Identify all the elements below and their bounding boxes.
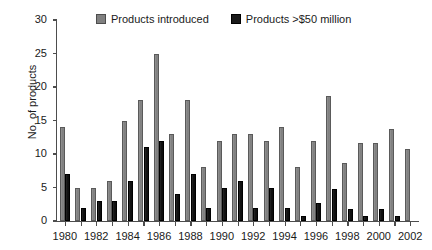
bar-products-over-50-million-1986 xyxy=(159,141,164,221)
x-tick-mark-1998 xyxy=(347,222,348,226)
x-tick-mark-1985 xyxy=(143,222,144,226)
x-tick-mark-1997 xyxy=(332,222,333,226)
bar-products-introduced-1984 xyxy=(122,121,127,222)
x-tick-label-2002: 2002 xyxy=(398,230,422,243)
y-tick-mark xyxy=(53,53,57,54)
x-tick-label-1992: 1992 xyxy=(241,230,265,243)
bar-products-over-50-million-1999 xyxy=(363,216,368,221)
bar-products-over-50-million-1991 xyxy=(238,181,243,221)
x-tick-mark-1994 xyxy=(285,222,286,226)
x-tick-mark-1992 xyxy=(253,222,254,226)
y-axis-title: No. of products xyxy=(26,42,38,162)
bars-layer xyxy=(57,20,418,221)
x-tick-mark-1989 xyxy=(206,222,207,226)
bar-products-over-50-million-2001 xyxy=(395,216,400,221)
y-tick-mark xyxy=(53,86,57,87)
bar-products-introduced-1999 xyxy=(358,143,363,221)
x-tick-mark-1984 xyxy=(128,222,129,226)
x-tick-mark-1986 xyxy=(159,222,160,226)
bar-products-introduced-1987 xyxy=(169,134,174,221)
bar-products-over-50-million-1997 xyxy=(332,189,337,221)
y-tick-label: 5 xyxy=(41,181,47,194)
x-tick-mark-1999 xyxy=(363,222,364,226)
y-tick-label: 30 xyxy=(35,13,47,26)
x-tick-label-2000: 2000 xyxy=(367,230,391,243)
x-tick-label-1982: 1982 xyxy=(84,230,108,243)
y-tick-mark xyxy=(53,153,57,154)
x-tick-mark-1981 xyxy=(81,222,82,226)
bar-products-over-50-million-1983 xyxy=(112,201,117,221)
bar-products-introduced-1980 xyxy=(60,127,65,221)
bar-products-introduced-1990 xyxy=(217,141,222,221)
bar-products-introduced-1982 xyxy=(91,188,96,222)
y-tick-mark xyxy=(53,187,57,188)
y-tick-label: 0 xyxy=(41,214,47,227)
bar-products-over-50-million-1995 xyxy=(301,216,306,221)
x-tick-label-1996: 1996 xyxy=(304,230,328,243)
bar-products-introduced-1998 xyxy=(342,163,347,221)
x-tick-mark-1993 xyxy=(269,222,270,226)
bar-products-introduced-1986 xyxy=(154,54,159,222)
bar-products-introduced-1992 xyxy=(248,134,253,221)
bar-products-over-50-million-1984 xyxy=(128,181,133,221)
x-tick-label-1988: 1988 xyxy=(178,230,202,243)
bar-products-over-50-million-1985 xyxy=(144,147,149,221)
x-tick-mark-1980 xyxy=(65,222,66,226)
x-tick-mark-1983 xyxy=(112,222,113,226)
x-tick-label-1998: 1998 xyxy=(335,230,359,243)
bar-products-over-50-million-1987 xyxy=(175,194,180,221)
bar-products-over-50-million-1994 xyxy=(285,208,290,221)
bar-products-introduced-1989 xyxy=(201,167,206,221)
x-tick-mark-2001 xyxy=(394,222,395,226)
x-tick-mark-1991 xyxy=(238,222,239,226)
bar-products-over-50-million-1993 xyxy=(269,188,274,222)
y-tick-label: 20 xyxy=(35,80,47,93)
bar-products-introduced-1994 xyxy=(279,127,284,221)
bar-products-introduced-1988 xyxy=(185,100,190,221)
bar-products-introduced-1981 xyxy=(75,188,80,222)
bar-products-over-50-million-2000 xyxy=(379,209,384,221)
bar-products-introduced-2001 xyxy=(389,129,394,221)
plot-area: 051015202530 xyxy=(57,20,418,221)
bar-products-introduced-1997 xyxy=(326,96,331,221)
y-tick-mark xyxy=(53,19,57,20)
x-tick-label-1980: 1980 xyxy=(53,230,77,243)
bar-products-introduced-1993 xyxy=(264,141,269,221)
x-tick-mark-1988 xyxy=(190,222,191,226)
bar-products-introduced-2000 xyxy=(373,143,378,221)
y-tick-label: 10 xyxy=(35,147,47,160)
bar-products-introduced-1983 xyxy=(107,181,112,221)
x-tick-label-1994: 1994 xyxy=(272,230,296,243)
y-tick-label: 15 xyxy=(35,114,47,127)
y-tick-label: 25 xyxy=(35,47,47,60)
bar-products-over-50-million-1988 xyxy=(191,174,196,221)
x-tick-label-1984: 1984 xyxy=(115,230,139,243)
bar-products-introduced-1995 xyxy=(295,167,300,221)
bar-products-over-50-million-1981 xyxy=(81,208,86,221)
bar-products-over-50-million-1992 xyxy=(253,208,258,221)
x-tick-mark-1982 xyxy=(96,222,97,226)
bar-products-introduced-2002 xyxy=(405,149,410,221)
x-tick-mark-2002 xyxy=(410,222,411,226)
bar-products-over-50-million-1998 xyxy=(348,209,353,221)
y-tick-mark xyxy=(53,120,57,121)
bar-products-over-50-million-1982 xyxy=(97,201,102,221)
x-tick-mark-1996 xyxy=(316,222,317,226)
bar-products-introduced-1991 xyxy=(232,134,237,221)
x-tick-mark-1990 xyxy=(222,222,223,226)
x-ticks: 1980198219841986198819901992199419961998… xyxy=(56,222,419,248)
bar-products-introduced-1996 xyxy=(311,141,316,221)
bar-products-over-50-million-1980 xyxy=(65,174,70,221)
x-tick-mark-2000 xyxy=(379,222,380,226)
x-tick-label-1986: 1986 xyxy=(147,230,171,243)
x-tick-mark-1995 xyxy=(300,222,301,226)
bar-products-over-50-million-1996 xyxy=(316,203,321,221)
x-tick-mark-1987 xyxy=(175,222,176,226)
bar-products-over-50-million-1989 xyxy=(206,208,211,221)
bar-products-introduced-1985 xyxy=(138,100,143,221)
bar-products-over-50-million-1990 xyxy=(222,188,227,222)
bar-chart: Products introduced Products >$50 millio… xyxy=(0,0,432,250)
x-tick-label-1990: 1990 xyxy=(210,230,234,243)
